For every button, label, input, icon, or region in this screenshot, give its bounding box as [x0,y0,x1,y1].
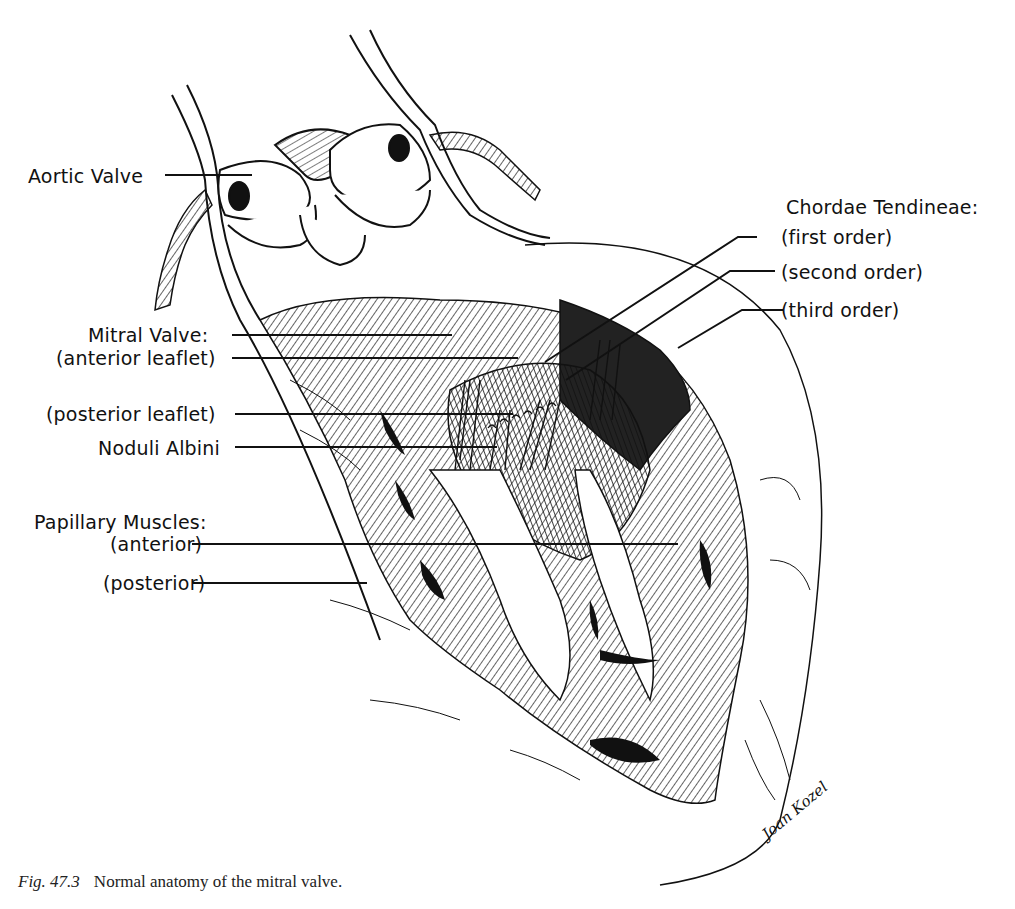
label-anterior-leaflet: (anterior leaflet) [56,347,216,369]
figure-number: Fig. 47.3 [18,872,80,891]
label-pm-posterior: (posterior) [103,572,205,594]
coronary-artery-left [155,190,212,310]
label-ct-first-order: (first order) [781,226,892,248]
label-chordae-tendineae: Chordae Tendineae: [786,196,978,218]
figure-caption-text: Normal anatomy of the mitral valve. [94,872,342,891]
label-pm-anterior: (anterior) [110,533,202,555]
label-mitral-valve: Mitral Valve: [88,324,208,346]
label-posterior-leaflet: (posterior leaflet) [46,403,216,425]
aortic-cusps [218,124,430,265]
coronary-artery-right [430,132,540,200]
figure-caption: Fig. 47.3Normal anatomy of the mitral va… [18,872,342,892]
label-aortic-valve: Aortic Valve [28,165,143,187]
label-ct-third-order: (third order) [781,299,899,321]
label-papillary-muscles: Papillary Muscles: [34,511,207,533]
label-noduli-albini: Noduli Albini [98,437,220,459]
label-ct-second-order: (second order) [781,261,923,283]
